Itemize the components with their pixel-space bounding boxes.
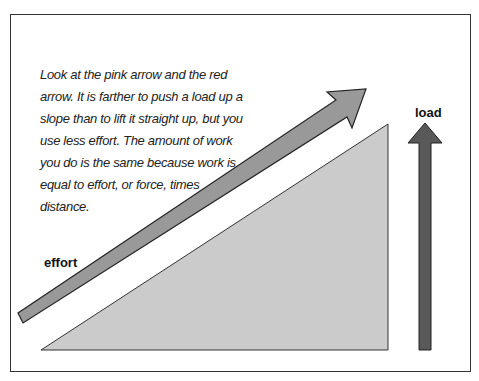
effort-label: effort [44,255,77,270]
load-arrow [408,123,442,350]
caption-text: Look at the pink arrow and the red arrow… [40,64,248,218]
load-label: load [415,105,442,120]
